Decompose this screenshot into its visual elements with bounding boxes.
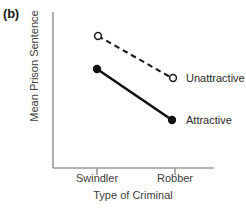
y-axis-label: Mean Prison Sentence	[28, 1, 40, 131]
data-point-unattractive-robber	[170, 75, 177, 82]
series-line-attractive	[97, 69, 172, 120]
series-label-attractive: Attractive	[186, 114, 232, 126]
figure-panel-b: Criminal for Unattractive Defendant (b) …	[0, 0, 246, 210]
panel-label: (b)	[3, 6, 19, 21]
series-label-unattractive: Unattractive	[186, 72, 245, 84]
data-point-attractive-swindler	[93, 65, 101, 73]
x-axis-label: Type of Criminal	[53, 189, 213, 201]
x-tick-label-swindler: Swindler	[52, 172, 142, 184]
data-point-attractive-robber	[168, 116, 176, 124]
series-line-unattractive	[98, 36, 172, 78]
x-tick-label-robber: Robber	[130, 172, 220, 184]
data-point-unattractive-swindler	[95, 33, 102, 40]
